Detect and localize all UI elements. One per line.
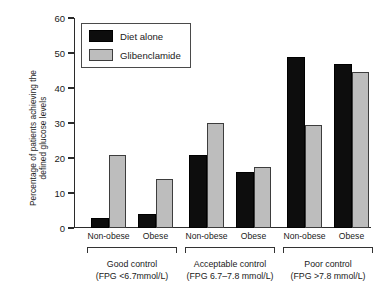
chart-legend: Diet alone Glibenclamide xyxy=(81,23,191,68)
group-caption-row: Good control(FPG <6.7mmol/L)Acceptable c… xyxy=(74,258,371,298)
subgroup-label-0: Non-obese xyxy=(87,231,129,241)
bar-glibenclamide-2 xyxy=(207,123,225,228)
bar-glibenclamide-1 xyxy=(156,179,174,228)
bar-diet-alone-0 xyxy=(91,218,109,229)
y-tick-label-60: 60 xyxy=(54,13,65,24)
bar-diet-alone-1 xyxy=(138,214,156,228)
y-axis-title-text: Percentage of patients achieving the def… xyxy=(28,70,49,206)
group-bracket-1 xyxy=(185,247,275,253)
group-bracket-2 xyxy=(283,247,373,253)
group-caption-0: Good control(FPG <6.7mmol/L) xyxy=(96,258,169,282)
group-caption-line2-1: (FPG 6.7–7.8 mmol/L) xyxy=(186,270,273,282)
subgroup-label-row: Non-obeseObeseNon-obeseObeseNon-obeseObe… xyxy=(74,231,371,244)
group-bracket-0 xyxy=(87,247,177,253)
y-tick-label-10: 10 xyxy=(54,187,65,198)
bar-diet-alone-4 xyxy=(287,57,305,229)
legend-entry-diet-alone: Diet alone xyxy=(89,30,181,42)
bar-chart-figure: Percentage of patients achieving the def… xyxy=(0,0,387,308)
legend-label-diet-alone: Diet alone xyxy=(120,31,163,42)
group-caption-line1-1: Acceptable control xyxy=(194,259,266,269)
group-caption-line2-2: (FPG >7.8 mmol/L) xyxy=(290,270,365,282)
subgroup-label-4: Non-obese xyxy=(283,231,325,241)
subgroup-label-1: Obese xyxy=(143,231,168,241)
subgroup-label-3: Obese xyxy=(241,231,266,241)
bar-glibenclamide-0 xyxy=(109,155,127,229)
bar-glibenclamide-4 xyxy=(305,125,323,228)
group-caption-1: Acceptable control(FPG 6.7–7.8 mmol/L) xyxy=(186,258,273,282)
diet-alone-swatch-icon xyxy=(89,30,113,42)
glibenclamide-swatch-icon xyxy=(89,49,113,61)
y-axis-title: Percentage of patients achieving the def… xyxy=(18,38,58,238)
legend-label-glibenclamide: Glibenclamide xyxy=(120,50,181,61)
y-tick-label-30: 30 xyxy=(54,117,65,128)
y-tick-label-40: 40 xyxy=(54,82,65,93)
subgroup-label-5: Obese xyxy=(339,231,364,241)
bar-diet-alone-2 xyxy=(189,155,207,229)
subgroup-label-2: Non-obese xyxy=(185,231,227,241)
y-tick-label-0: 0 xyxy=(60,222,65,233)
bar-glibenclamide-5 xyxy=(352,72,370,228)
group-caption-line2-0: (FPG <6.7mmol/L) xyxy=(96,270,169,282)
group-caption-line1-0: Good control xyxy=(107,259,157,269)
bar-diet-alone-5 xyxy=(334,64,352,229)
group-bracket-row xyxy=(74,247,371,255)
x-axis-labels: Non-obeseObeseNon-obeseObeseNon-obeseObe… xyxy=(74,231,371,308)
y-tick-label-20: 20 xyxy=(54,152,65,163)
group-caption-2: Poor control(FPG >7.8 mmol/L) xyxy=(290,258,365,282)
bar-glibenclamide-3 xyxy=(254,167,272,228)
bar-diet-alone-3 xyxy=(236,172,254,228)
legend-entry-glibenclamide: Glibenclamide xyxy=(89,49,181,61)
y-tick-label-50: 50 xyxy=(54,47,65,58)
group-caption-line1-2: Poor control xyxy=(304,259,351,269)
